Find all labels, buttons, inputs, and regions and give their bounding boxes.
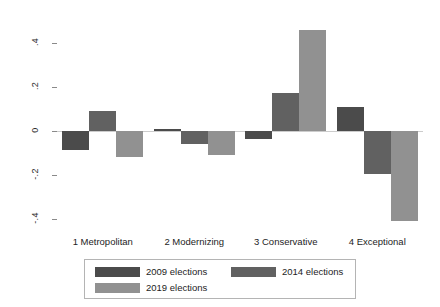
legend-label: 2009 elections: [146, 266, 207, 277]
legend-label: 2019 elections: [146, 282, 207, 293]
x-tick-label: 3 Conservative: [240, 236, 332, 247]
x-tick-label: 2 Modernizing: [149, 236, 241, 247]
bar-2-2009: [154, 129, 181, 131]
y-tick-mark: [52, 219, 57, 220]
bar-2-2019: [208, 131, 235, 155]
y-tick-label: .2: [30, 73, 40, 99]
legend-swatch: [231, 267, 276, 277]
bar-3-2014: [272, 93, 299, 131]
bar-3-2019: [299, 30, 326, 131]
y-tick-mark: [52, 43, 57, 44]
bar-1-2009: [62, 131, 89, 150]
bar-1-2019: [116, 131, 143, 157]
y-tick-label: 0: [30, 117, 40, 143]
bar-2-2014: [181, 131, 208, 144]
y-tick-mark: [52, 131, 57, 132]
legend-swatch: [95, 267, 140, 277]
bar-4-2009: [337, 107, 364, 131]
bar-chart-figure: .4.20-.2-.4 1 Metropolitan2 Modernizing3…: [0, 0, 440, 307]
y-tick-label: .4: [30, 29, 40, 55]
y-tick-mark: [52, 175, 57, 176]
y-tick-label: -.2: [30, 161, 40, 187]
chart-legend: 2009 elections2014 elections2019 electio…: [84, 259, 356, 299]
legend-item: 2009 elections: [95, 266, 207, 277]
y-axis-line: [0, 0, 1, 213]
bar-4-2014: [364, 131, 391, 174]
y-tick-label: -.4: [30, 205, 40, 231]
legend-label: 2014 elections: [282, 266, 343, 277]
legend-item: 2014 elections: [231, 266, 343, 277]
legend-item: 2019 elections: [95, 282, 207, 293]
x-axis-line: [0, 213, 366, 214]
legend-swatch: [95, 283, 140, 293]
x-tick-label: 4 Exceptional: [332, 236, 424, 247]
bar-3-2009: [245, 131, 272, 139]
bar-1-2014: [89, 111, 116, 131]
x-tick-label: 1 Metropolitan: [57, 236, 149, 247]
bar-4-2019: [391, 131, 418, 221]
y-tick-mark: [52, 87, 57, 88]
